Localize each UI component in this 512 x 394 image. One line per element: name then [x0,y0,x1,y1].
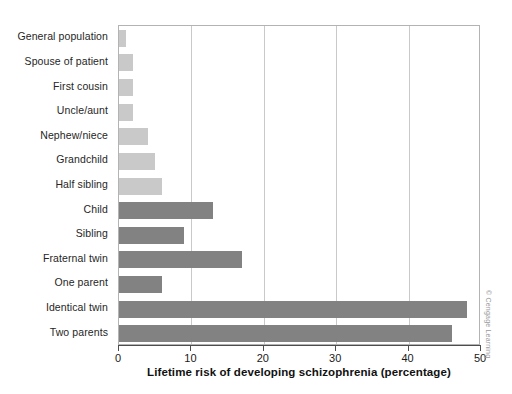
schizophrenia-risk-bar-chart: General populationSpouse of patientFirst… [0,0,512,394]
bar-nephew-niece [119,128,148,145]
y-label-nephew-niece: Nephew/niece [40,130,108,141]
y-label-half-sibling: Half sibling [55,179,108,190]
y-label-grandchild: Grandchild [56,154,108,165]
y-label-one-parent: One parent [54,277,108,288]
bar-two-parents [119,325,452,342]
plot-area [118,25,480,345]
x-tick [480,345,481,351]
gridline [191,26,192,344]
gridline [264,26,265,344]
bar-identical-twin [119,301,467,318]
x-axis-title: Lifetime risk of developing schizophreni… [118,366,480,378]
y-label-identical-twin: Identical twin [46,302,108,313]
y-label-general-population: General population [17,31,108,42]
x-tick-label: 40 [401,352,413,364]
bar-sibling [119,227,184,244]
x-tick-label: 0 [115,352,121,364]
y-label-spouse-of-patient: Spouse of patient [25,56,108,67]
x-tick [190,345,191,351]
bar-uncle-aunt [119,104,133,121]
bar-half-sibling [119,178,162,195]
bar-fraternal-twin [119,251,242,268]
x-tick-label: 20 [257,352,269,364]
bar-first-cousin [119,79,133,96]
x-tick [335,345,336,351]
bar-spouse-of-patient [119,54,133,71]
x-tick-label: 10 [184,352,196,364]
x-tick-label: 30 [329,352,341,364]
gridline [336,26,337,344]
copyright-credit: © Cengage Learning [485,290,492,358]
y-label-first-cousin: First cousin [53,81,108,92]
y-axis-category-labels: General populationSpouse of patientFirst… [0,25,113,345]
y-label-uncle-aunt: Uncle/aunt [57,105,108,116]
y-label-child: Child [84,204,108,215]
x-tick [118,345,119,351]
bar-grandchild [119,153,155,170]
bar-general-population [119,30,126,47]
bar-one-parent [119,276,162,293]
y-label-sibling: Sibling [76,228,108,239]
gridline [409,26,410,344]
y-label-fraternal-twin: Fraternal twin [43,253,108,264]
x-tick [408,345,409,351]
x-tick [263,345,264,351]
x-axis-line: 01020304050 [118,345,480,346]
bar-child [119,202,213,219]
y-label-two-parents: Two parents [50,327,108,338]
